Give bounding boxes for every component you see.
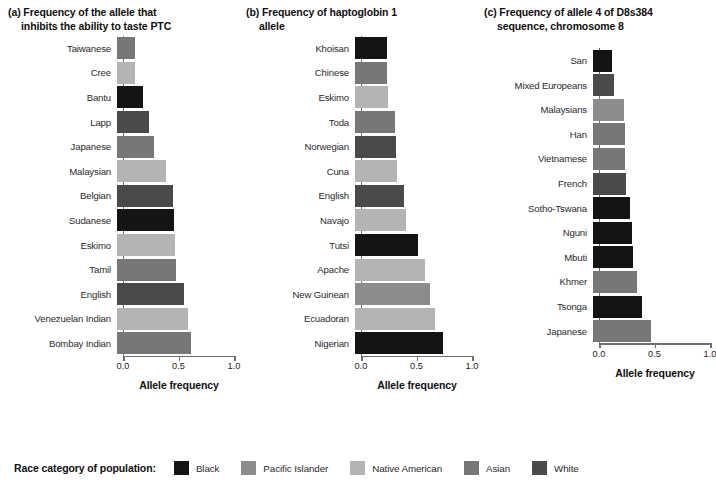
bar-row-label: Sotho-Tswana — [476, 203, 593, 214]
bar-row: Nigerian — [238, 331, 476, 356]
bar — [355, 209, 406, 231]
bar-row: Cuna — [238, 159, 476, 184]
bar-row: Bantu — [0, 85, 238, 110]
legend-swatch-icon — [241, 461, 256, 475]
bar-row-label: Bantu — [0, 92, 117, 103]
bar-row-label: Khmer — [476, 276, 593, 287]
bar-track — [593, 220, 705, 245]
legend-item: Asian — [464, 461, 510, 475]
chart-c-bar-rows: SanMixed EuropeansMalaysiansHanVietnames… — [476, 36, 714, 343]
bar-row: Lapp — [0, 110, 238, 135]
chart-a-title-line1: (a) Frequency of the allele that — [8, 6, 157, 18]
chart-b-x-axis-title: Allele frequency — [361, 379, 473, 391]
bar-row: Bombay Indian — [0, 331, 238, 356]
bar — [117, 136, 154, 158]
chart-b-x-tick-labels: 0.00.51.0 — [361, 361, 473, 375]
bar-row-label: Han — [476, 129, 593, 140]
chart-b-plot-area: KhoisanChineseEskimoTodaNorwegianCunaEng… — [238, 36, 476, 396]
bar-row-label: English — [238, 190, 355, 201]
chart-b-bar-rows: KhoisanChineseEskimoTodaNorwegianCunaEng… — [238, 36, 476, 356]
bar-row: Sudanese — [0, 208, 238, 233]
bar-row-label: Taiwanese — [0, 43, 117, 54]
bar-row: Sotho-Tswana — [476, 196, 714, 221]
bar-row-label: Norwegian — [238, 141, 355, 152]
x-axis-tick — [361, 356, 363, 361]
bar — [117, 62, 135, 84]
bar — [355, 332, 443, 354]
bar-row-label: Tutsi — [238, 240, 355, 251]
legend-items: BlackPacific IslanderNative AmericanAsia… — [174, 461, 601, 475]
bar-row-label: Sudanese — [0, 215, 117, 226]
bar — [593, 271, 637, 293]
bar-row-label: Tamil — [0, 264, 117, 275]
x-axis-tick — [472, 356, 474, 361]
bar — [355, 111, 395, 133]
bar-row: Han — [476, 122, 714, 147]
bar — [117, 259, 176, 281]
bar — [117, 209, 174, 231]
bar-row-label: English — [0, 289, 117, 300]
chart-c-x-tick-labels: 0.00.51.0 — [599, 349, 711, 363]
bar — [355, 234, 418, 256]
legend-item: Pacific Islander — [241, 461, 328, 475]
legend-item: Black — [174, 461, 219, 475]
bar-track — [355, 208, 467, 233]
x-axis-tick — [234, 356, 236, 361]
bar-row: Mbuti — [476, 245, 714, 270]
x-axis-tick — [599, 343, 601, 348]
bar-row-label: French — [476, 178, 593, 189]
bar — [117, 185, 173, 207]
bar — [593, 173, 626, 195]
bar-row-label: Japanese — [0, 141, 117, 152]
chart-panels-container: (a) Frequency of the allele that inhibit… — [0, 0, 715, 440]
bar-row: Chinese — [238, 61, 476, 86]
chart-c-x-axis-line — [599, 343, 710, 345]
x-axis-tick-label: 0.5 — [410, 361, 423, 371]
bar-row: English — [0, 282, 238, 307]
chart-a-x-tick-labels: 0.00.51.0 — [123, 361, 235, 375]
bar-row-label: Apache — [238, 264, 355, 275]
bar-track — [355, 257, 467, 282]
bar — [593, 320, 651, 342]
bar — [355, 259, 425, 281]
x-axis-tick — [710, 343, 712, 348]
x-axis-tick — [655, 343, 657, 348]
legend: Race category of population: BlackPacifi… — [0, 452, 715, 484]
legend-item-label: Pacific Islander — [263, 463, 328, 474]
bar-track — [117, 159, 229, 184]
bar-track — [355, 110, 467, 135]
bar-track — [117, 61, 229, 86]
bar — [355, 308, 435, 330]
chart-panel-b: (b) Frequency of haptoglobin 1 allele Kh… — [238, 0, 476, 440]
bar-row: New Guinean — [238, 282, 476, 307]
bar-row-label: Toda — [238, 117, 355, 128]
bar-track — [355, 61, 467, 86]
bar — [117, 86, 143, 108]
bar-row-label: Nigerian — [238, 338, 355, 349]
x-axis-tick-label: 0.0 — [593, 349, 606, 359]
bar-row: Mixed Europeans — [476, 73, 714, 98]
bar-track — [593, 270, 705, 295]
bar — [593, 99, 624, 121]
bar — [355, 160, 397, 182]
bar-track — [117, 257, 229, 282]
legend-item-label: White — [554, 463, 579, 474]
bar-row-label: Belgian — [0, 190, 117, 201]
legend-swatch-icon — [464, 461, 479, 475]
bar-row-label: Khoisan — [238, 43, 355, 54]
bar-track — [593, 122, 705, 147]
bar-row-label: Venezuelan Indian — [0, 313, 117, 324]
bar-row: Cree — [0, 61, 238, 86]
bar — [117, 283, 184, 305]
bar-track — [593, 319, 705, 344]
chart-c-title-line2: sequence, chromosome 8 — [484, 20, 710, 34]
bar-track — [355, 159, 467, 184]
legend-title: Race category of population: — [14, 462, 156, 474]
bar-row: Eskimo — [0, 233, 238, 258]
chart-panel-c: (c) Frequency of allele 4 of D8s384 sequ… — [476, 0, 714, 440]
bar-track — [117, 307, 229, 332]
bar-row-label: Cree — [0, 67, 117, 78]
bar-row: Norwegian — [238, 134, 476, 159]
legend-swatch-icon — [174, 461, 189, 475]
